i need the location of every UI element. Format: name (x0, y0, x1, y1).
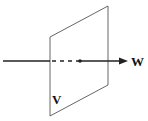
arrowhead-icon (119, 58, 128, 65)
plane-v-label: V (52, 92, 62, 107)
vector-w-label: W (131, 54, 144, 69)
diagram: W V (0, 0, 148, 121)
